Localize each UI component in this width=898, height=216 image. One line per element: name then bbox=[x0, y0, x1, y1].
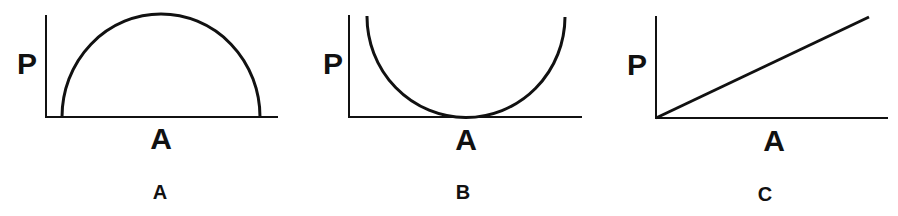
panel-c-y-axis-label: P bbox=[627, 50, 647, 80]
panel-c-plot bbox=[655, 16, 888, 119]
panel-b-u-curve bbox=[367, 16, 565, 117]
panel-c-linear-line bbox=[656, 17, 869, 118]
panel-c-x-axis-label: A bbox=[763, 126, 785, 156]
panel-a-plot bbox=[45, 14, 278, 118]
panel-a-caption: A bbox=[153, 182, 167, 202]
panel-b-x-axis-label: A bbox=[455, 125, 477, 155]
panel-c-caption: C bbox=[758, 184, 772, 204]
panel-a-dome-curve bbox=[62, 14, 260, 117]
panel-a-y-axis-label: P bbox=[17, 49, 37, 79]
panel-b-plot bbox=[348, 15, 582, 118]
panel-b-caption: B bbox=[456, 182, 470, 202]
panel-b-y-axis-label: P bbox=[323, 49, 343, 79]
panel-a-x-axis-label: A bbox=[150, 124, 172, 154]
